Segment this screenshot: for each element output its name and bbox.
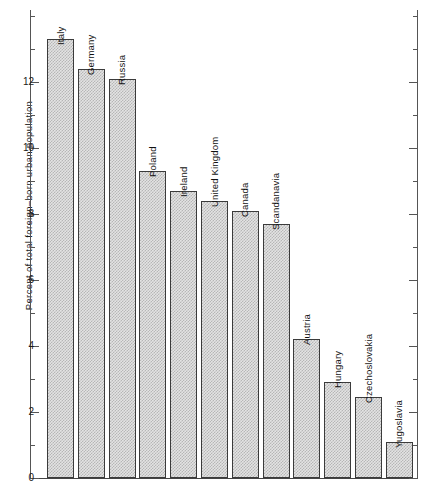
y-tick-minor [30,49,35,50]
bar [263,224,290,478]
y-tick-label: 8 [10,208,34,219]
bar-label: Italy [55,27,66,45]
y-tick-minor [413,115,418,116]
bar-label: Scandanavia [270,173,281,230]
bar-label: Hungary [332,351,343,388]
y-tick-minor [30,247,35,248]
y-tick-major [409,148,418,149]
bar-label: United Kingdom [209,136,220,206]
right-axis-line [417,10,418,479]
bar-label: Canada [239,182,250,216]
bar-chart: Percent of total foreign–born urban popu… [0,0,430,490]
bar [139,171,166,478]
y-tick-label: 10 [10,142,34,153]
y-tick-label: 12 [10,76,34,87]
y-tick-major [409,412,418,413]
y-tick-major [409,82,418,83]
y-tick-minor [413,247,418,248]
y-tick-label: 4 [10,340,34,351]
bar [47,39,74,478]
y-tick-label: 6 [10,274,34,285]
y-tick-minor [413,445,418,446]
bar [355,397,382,478]
bar-label: Czechoslovakia [363,334,374,403]
y-tick-major [409,346,418,347]
y-tick-minor [413,49,418,50]
bar-label: Austria [301,314,312,345]
bar [109,79,136,478]
bar-label: Poland [147,146,158,177]
bar [201,201,228,478]
y-tick-minor [30,379,35,380]
y-tick-major [409,214,418,215]
y-tick-minor [30,16,35,17]
bar-label: Russia [116,54,127,84]
y-tick-major [409,280,418,281]
x-axis-line [30,478,418,479]
y-tick-minor [30,181,35,182]
y-tick-label: 0 [10,472,34,483]
y-axis-title: Percent of total foreign–born urban popu… [23,86,34,326]
bar [293,339,320,478]
bar-label: Germany [85,34,96,74]
y-tick-minor [413,16,418,17]
y-tick-minor [413,379,418,380]
y-tick-label: 2 [10,406,34,417]
y-tick-minor [413,181,418,182]
bar [324,382,351,478]
y-tick-major [409,478,418,479]
bar-label: Ireland [178,166,189,196]
bar-label: Yugoslavia [393,400,404,448]
y-tick-minor [30,445,35,446]
bar [78,69,105,478]
y-tick-minor [30,313,35,314]
y-tick-minor [413,313,418,314]
bar [232,211,259,478]
y-tick-minor [30,115,35,116]
bar [170,191,197,478]
